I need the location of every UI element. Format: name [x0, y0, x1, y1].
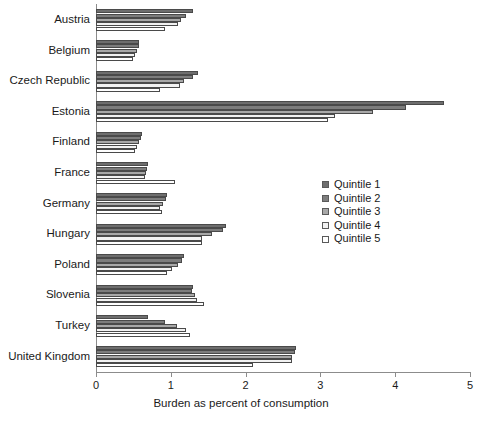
- category-label: Austria: [0, 13, 90, 25]
- x-axis-title: Burden as percent of consumption: [0, 397, 482, 409]
- chart-row: Czech Republic: [0, 65, 482, 96]
- bar-group: [96, 220, 470, 246]
- legend-label: Quintile 4: [334, 219, 380, 233]
- bar-group: [96, 251, 470, 277]
- bar-group: [96, 98, 470, 124]
- legend-label: Quintile 1: [334, 178, 380, 192]
- legend-swatch-icon: [322, 222, 329, 229]
- category-label: United Kingdom: [0, 350, 90, 362]
- bar-group: [96, 6, 470, 32]
- category-label: Poland: [0, 258, 90, 270]
- category-label: France: [0, 166, 90, 178]
- chart-row: Belgium: [0, 35, 482, 66]
- bar-germany-q5: [96, 210, 162, 214]
- category-label: Belgium: [0, 44, 90, 56]
- legend-swatch-icon: [322, 181, 329, 188]
- x-tick-label-5: 5: [467, 379, 473, 391]
- chart-row: Germany: [0, 188, 482, 219]
- x-tick-0: [96, 372, 97, 377]
- legend-swatch-icon: [322, 208, 329, 215]
- x-tick-label-4: 4: [392, 379, 398, 391]
- chart-row: Hungary: [0, 218, 482, 249]
- bar-poland-q5: [96, 271, 167, 275]
- category-label: Germany: [0, 197, 90, 209]
- bar-turkey-q5: [96, 333, 190, 337]
- bar-group: [96, 281, 470, 307]
- category-label: Slovenia: [0, 288, 90, 300]
- category-label: Estonia: [0, 105, 90, 117]
- x-tick-label-0: 0: [93, 379, 99, 391]
- chart-row: Turkey: [0, 310, 482, 341]
- bar-slovenia-q5: [96, 302, 204, 306]
- x-tick-1: [171, 372, 172, 377]
- category-label: Turkey: [0, 319, 90, 331]
- legend-label: Quintile 2: [334, 192, 380, 206]
- x-tick-label-3: 3: [317, 379, 323, 391]
- legend-swatch-icon: [322, 195, 329, 202]
- bar-belgium-q5: [96, 57, 133, 61]
- bar-austria-q5: [96, 27, 165, 31]
- legend-item: Quintile 3: [322, 205, 380, 219]
- legend-item: Quintile 1: [322, 178, 380, 192]
- chart-legend: Quintile 1Quintile 2Quintile 3Quintile 4…: [322, 178, 380, 246]
- bar-estonia-q5: [96, 118, 328, 122]
- legend-label: Quintile 3: [334, 205, 380, 219]
- x-tick-4: [395, 372, 396, 377]
- chart-row: Poland: [0, 249, 482, 280]
- legend-item: Quintile 5: [322, 232, 380, 246]
- x-axis-line: [96, 372, 471, 373]
- chart-row: Austria: [0, 4, 482, 35]
- x-tick-3: [320, 372, 321, 377]
- chart-row: France: [0, 157, 482, 188]
- chart-row: Slovenia: [0, 279, 482, 310]
- bar-group: [96, 128, 470, 154]
- chart-row: Estonia: [0, 96, 482, 127]
- bar-finland-q5: [96, 149, 135, 153]
- chart-row: United Kingdom: [0, 341, 482, 372]
- bar-group: [96, 67, 470, 93]
- category-label: Finland: [0, 135, 90, 147]
- category-label: Czech Republic: [0, 74, 90, 86]
- legend-swatch-icon: [322, 236, 329, 243]
- bar-hungary-q5: [96, 241, 202, 245]
- x-tick-5: [470, 372, 471, 377]
- legend-item: Quintile 2: [322, 192, 380, 206]
- legend-item: Quintile 4: [322, 219, 380, 233]
- bar-czech-republic-q5: [96, 88, 160, 92]
- bar-united-kingdom-q5: [96, 363, 253, 367]
- bar-group: [96, 37, 470, 63]
- chart-row: Finland: [0, 126, 482, 157]
- bar-group: [96, 159, 470, 185]
- x-tick-2: [246, 372, 247, 377]
- category-label: Hungary: [0, 227, 90, 239]
- bar-group: [96, 312, 470, 338]
- chart-container: AustriaBelgiumCzech RepublicEstoniaFinla…: [0, 0, 482, 421]
- x-tick-label-1: 1: [168, 379, 174, 391]
- x-tick-label-2: 2: [243, 379, 249, 391]
- bar-group: [96, 343, 470, 369]
- bar-france-q5: [96, 180, 175, 184]
- legend-label: Quintile 5: [334, 232, 380, 246]
- bar-group: [96, 190, 470, 216]
